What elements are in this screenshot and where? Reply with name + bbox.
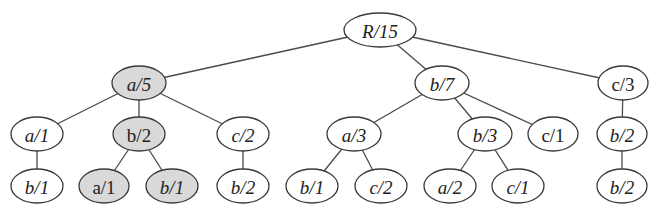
- tree-node-a1: a/1: [11, 117, 63, 151]
- tree-node-a1s: a/1: [79, 169, 129, 203]
- node-label: a/2: [438, 177, 463, 198]
- node-label: b/1: [160, 177, 184, 198]
- tree-edge-root-c3: [380, 30, 623, 83]
- node-label: c/3: [611, 74, 634, 95]
- node-label: b/2: [610, 125, 635, 146]
- tree-node-c3: c/3: [598, 66, 648, 100]
- tree-node-a2: a/2: [424, 169, 476, 203]
- node-label: b/2: [231, 177, 256, 198]
- tree-node-a5: a/5: [112, 66, 166, 100]
- tree-node-b2c: b/2: [217, 169, 269, 203]
- tree-node-c2: c/2: [217, 117, 269, 151]
- tree-node-b3: b/3: [458, 117, 512, 151]
- tree-edges: [37, 30, 623, 186]
- node-label: a/5: [127, 74, 151, 95]
- tree-node-b7: b/7: [415, 66, 469, 100]
- node-label: b/2: [127, 125, 151, 146]
- tree-edge-root-a5: [139, 30, 380, 83]
- node-label: c/1: [506, 177, 529, 198]
- node-label: c/2: [231, 125, 255, 146]
- node-label: a/1: [25, 125, 49, 146]
- fp-tree-diagram: R/15a/5b/7c/3a/1b/2c/2a/3b/3c/1b/2b/1a/1…: [0, 0, 664, 216]
- node-label: b/3: [473, 125, 497, 146]
- tree-node-b1b: b/1: [286, 169, 338, 203]
- tree-node-c1b: c/1: [492, 169, 544, 203]
- tree-node-b1s: b/1: [146, 169, 198, 203]
- tree-node-b1a: b/1: [11, 169, 63, 203]
- tree-node-c1: c/1: [528, 117, 578, 151]
- tree-node-root: R/15: [344, 13, 416, 47]
- node-label: c/1: [541, 125, 564, 146]
- tree-node-a3: a/3: [327, 117, 381, 151]
- node-label: a/1: [92, 177, 115, 198]
- node-label: b/2: [610, 177, 635, 198]
- node-label: b/1: [300, 177, 324, 198]
- tree-node-c2b: c/2: [355, 169, 407, 203]
- node-label: R/15: [361, 21, 398, 42]
- node-label: a/3: [342, 125, 366, 146]
- tree-node-b2rr: b/2: [597, 169, 647, 203]
- node-label: b/7: [430, 74, 456, 95]
- tree-node-b2s: b/2: [113, 117, 165, 151]
- tree-node-b2r: b/2: [597, 117, 647, 151]
- node-label: c/2: [369, 177, 393, 198]
- node-label: b/1: [25, 177, 49, 198]
